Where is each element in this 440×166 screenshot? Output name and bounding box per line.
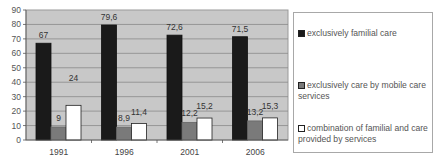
x-tick-label: 1991 bbox=[49, 147, 68, 157]
legend-swatch-icon bbox=[298, 125, 305, 132]
y-tick-label: 10 bbox=[12, 121, 22, 131]
y-tick-label: 70 bbox=[12, 34, 22, 44]
x-tick-label: 1996 bbox=[115, 147, 134, 157]
legend-item-familial: exclusively familial care bbox=[298, 28, 432, 39]
data-label: 8,9 bbox=[118, 113, 130, 123]
bar bbox=[263, 118, 278, 140]
y-tick-label: 60 bbox=[12, 48, 22, 58]
legend-swatch-icon bbox=[298, 30, 305, 37]
legend: exclusively familial care exclusively ca… bbox=[293, 12, 433, 153]
x-tick-label: 2001 bbox=[180, 147, 199, 157]
data-label: 15,3 bbox=[262, 101, 279, 111]
bar bbox=[51, 127, 66, 140]
data-label: 67 bbox=[39, 30, 49, 40]
y-tick-label: 80 bbox=[12, 19, 22, 29]
bar bbox=[197, 118, 212, 140]
bar bbox=[102, 25, 117, 140]
legend-label: exclusively familial care bbox=[307, 28, 397, 38]
data-label: 24 bbox=[69, 73, 79, 83]
legend-label: exclusively care by mobile care services bbox=[298, 80, 426, 101]
y-tick-label: 0 bbox=[16, 135, 21, 145]
y-tick-label: 20 bbox=[12, 106, 22, 116]
data-label: 11,4 bbox=[131, 107, 147, 117]
data-label: 9 bbox=[56, 113, 61, 123]
bar-chart: 0102030405060708090 6792479,68,911,472,6… bbox=[0, 0, 290, 166]
y-tick-label: 50 bbox=[12, 63, 22, 73]
legend-swatch-icon bbox=[298, 82, 305, 89]
y-tick-label: 40 bbox=[12, 77, 22, 87]
bar bbox=[182, 122, 197, 140]
legend-item-combination: combination of familial and care provide… bbox=[298, 123, 432, 145]
y-tick-label: 30 bbox=[12, 92, 22, 102]
data-label: 72,6 bbox=[166, 22, 183, 32]
bar bbox=[167, 35, 182, 140]
legend-item-mobile: exclusively care by mobile care services bbox=[298, 80, 432, 102]
plot-area bbox=[26, 10, 288, 140]
data-label: 79,6 bbox=[101, 12, 118, 22]
x-tick-label: 2006 bbox=[246, 147, 265, 157]
bar bbox=[36, 43, 51, 140]
y-axis: 0102030405060708090 bbox=[12, 5, 26, 145]
bar bbox=[132, 124, 147, 140]
legend-label: combination of familial and care provide… bbox=[298, 123, 428, 144]
bar bbox=[233, 37, 248, 140]
y-tick-label: 90 bbox=[12, 5, 22, 15]
bar bbox=[117, 127, 132, 140]
data-label: 71,5 bbox=[232, 24, 249, 34]
x-axis: 1991199620012006 bbox=[26, 140, 288, 157]
data-label: 15,2 bbox=[196, 101, 213, 111]
bar bbox=[248, 121, 263, 140]
bar bbox=[66, 105, 81, 140]
